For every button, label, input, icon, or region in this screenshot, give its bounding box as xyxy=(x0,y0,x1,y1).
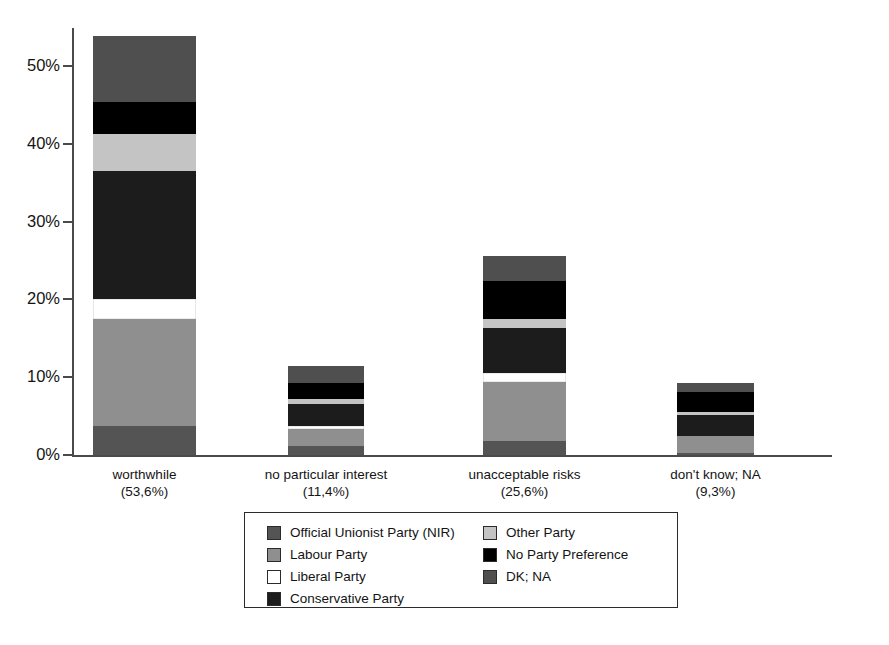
bar-segment xyxy=(93,134,196,171)
x-axis-label: don't know; NA(9,3%) xyxy=(606,466,826,500)
bar-segment xyxy=(483,373,566,382)
legend-label: Conservative Party xyxy=(290,592,404,606)
bar-segment xyxy=(288,366,364,383)
x-axis-label-text: unacceptable risks xyxy=(415,466,635,483)
bar-segment xyxy=(677,453,754,455)
bar-segment xyxy=(288,446,364,455)
bar-segment xyxy=(93,171,196,299)
bar-segment xyxy=(483,281,566,319)
y-axis-tick-label: 10% xyxy=(8,368,60,385)
legend-item-left-3[interactable]: Liberal Party xyxy=(267,566,455,588)
bar-segment xyxy=(288,404,364,427)
y-axis-tick xyxy=(63,221,72,223)
legend-swatch-icon xyxy=(267,570,281,584)
bar-segment xyxy=(93,319,196,426)
x-axis-line xyxy=(72,455,832,457)
legend-item-left-2[interactable]: Labour Party xyxy=(267,544,455,566)
legend-label: Other Party xyxy=(506,526,575,540)
legend-swatch-icon xyxy=(267,526,281,540)
legend-swatch-icon xyxy=(267,592,281,606)
bar-segment xyxy=(677,436,754,454)
bar-segment xyxy=(483,256,566,281)
y-axis-tick-label: 40% xyxy=(8,135,60,152)
plot-area: 0%10%20%30%40%50% xyxy=(72,28,832,457)
bar-segment xyxy=(93,299,196,319)
bar-segment xyxy=(677,383,754,392)
bar-segment xyxy=(93,426,196,455)
bar-segment xyxy=(288,383,364,399)
x-axis-label-total: (11,4%) xyxy=(216,483,436,500)
legend-label: Labour Party xyxy=(290,548,367,562)
legend-swatch-icon xyxy=(483,570,497,584)
legend-item-right-3[interactable]: DK; NA xyxy=(483,566,628,588)
x-axis-label-text: no particular interest xyxy=(216,466,436,483)
legend-item-left-4[interactable]: Conservative Party xyxy=(267,588,455,610)
y-axis-tick-label: 30% xyxy=(8,213,60,230)
legend-swatch-icon xyxy=(267,548,281,562)
legend-label: DK; NA xyxy=(506,570,551,584)
legend-item-right-1[interactable]: Other Party xyxy=(483,522,628,544)
bar-segment xyxy=(677,415,754,435)
x-axis-label-total: (9,3%) xyxy=(606,483,826,500)
bar-segment xyxy=(93,102,196,134)
legend-column-left: Official Unionist Party (NIR)Labour Part… xyxy=(267,522,455,610)
legend-item-right-2[interactable]: No Party Preference xyxy=(483,544,628,566)
bar-segment xyxy=(483,441,566,455)
y-axis-tick xyxy=(63,65,72,67)
bar-segment xyxy=(677,392,754,412)
y-axis-tick xyxy=(63,376,72,378)
y-axis-tick-label: 50% xyxy=(8,57,60,74)
x-axis-label-text: don't know; NA xyxy=(606,466,826,483)
bar-segment xyxy=(483,382,566,441)
legend-label: No Party Preference xyxy=(506,548,628,562)
bar-segment xyxy=(288,429,364,446)
x-axis-label-total: (25,6%) xyxy=(415,483,635,500)
legend-swatch-icon xyxy=(483,526,497,540)
bar-segment xyxy=(93,36,196,101)
y-axis-tick xyxy=(63,298,72,300)
bar-segment xyxy=(483,328,566,373)
legend: Official Unionist Party (NIR)Labour Part… xyxy=(244,512,678,608)
legend-swatch-icon xyxy=(483,548,497,562)
y-axis-line xyxy=(72,28,74,457)
bar-1 xyxy=(93,36,196,455)
y-axis-tick-label: 20% xyxy=(8,290,60,307)
legend-label: Liberal Party xyxy=(290,570,366,584)
bar-2 xyxy=(288,366,364,455)
bar-3 xyxy=(483,256,566,455)
legend-item-left-1[interactable]: Official Unionist Party (NIR) xyxy=(267,522,455,544)
legend-column-right: Other PartyNo Party PreferenceDK; NA xyxy=(483,522,628,588)
bar-4 xyxy=(677,383,754,455)
x-axis-label: unacceptable risks(25,6%) xyxy=(415,466,635,500)
y-axis-tick-label: 0% xyxy=(8,446,60,463)
stacked-bar-chart: 0%10%20%30%40%50% worthwhile(53,6%)no pa… xyxy=(0,0,889,645)
bar-segment xyxy=(483,319,566,328)
legend-label: Official Unionist Party (NIR) xyxy=(290,526,455,540)
y-axis-tick xyxy=(63,143,72,145)
y-axis-tick xyxy=(63,454,72,456)
x-axis-label: no particular interest(11,4%) xyxy=(216,466,436,500)
